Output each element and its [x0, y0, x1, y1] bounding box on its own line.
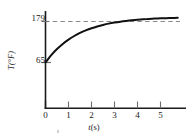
x-axis-tick-label-0: 0: [40, 110, 52, 120]
y-axis-title: T(°F): [7, 41, 16, 81]
x-axis-title-unit: (s): [91, 122, 100, 132]
x-axis-title: t(s): [0, 122, 188, 132]
y-axis-tick-label-179: 179: [32, 13, 46, 23]
x-axis-tick-label-5: 5: [155, 110, 167, 120]
x-axis-tick-label-2: 2: [86, 110, 98, 120]
x-axis-tick-label-3: 3: [109, 110, 121, 120]
chart-figure: 179 65 0 1 2 3 4 5 T(°F) t(s): [0, 0, 188, 140]
scan-artifact-mark: [57, 130, 59, 133]
x-axis-tick-label-1: 1: [63, 110, 75, 120]
temperature-curve: [46, 18, 178, 63]
y-axis-tick-label-65: 65: [36, 55, 45, 65]
x-axis-tick-label-4: 4: [132, 110, 144, 120]
